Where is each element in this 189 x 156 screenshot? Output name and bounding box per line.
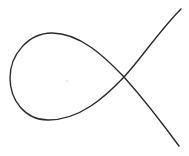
nodal-cubic-figure [0, 0, 189, 156]
curve-loop-and-branches [10, 9, 181, 146]
interior-dot [67, 81, 68, 82]
curve-canvas [0, 0, 189, 156]
